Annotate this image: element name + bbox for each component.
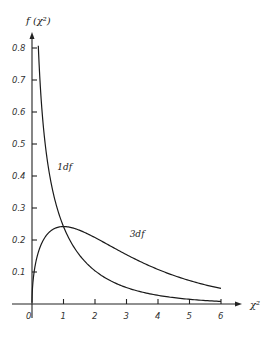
x-tick-label: 2	[92, 311, 97, 321]
x-axis-arrow-icon	[235, 302, 242, 307]
x-axis-title: χ²	[249, 299, 260, 310]
y-tick-label: 0.4	[12, 171, 26, 181]
x-tick-label: 4	[155, 311, 160, 321]
x-tick-label: 3	[124, 311, 129, 321]
chi-square-density-chart: 0123456 0.10.20.30.40.50.60.70.8 f (χ²) …	[0, 0, 276, 342]
curve-label-1df: 1df	[57, 162, 73, 172]
x-tick-label: 0	[26, 311, 31, 321]
y-tick-label: 0.6	[12, 107, 26, 117]
x-tick-label: 6	[218, 311, 224, 321]
curve-label-3df: 3df	[130, 229, 146, 239]
y-tick-label: 0.8	[12, 43, 26, 53]
axes	[12, 32, 242, 318]
y-ticks: 0.10.20.30.40.50.60.70.8	[12, 43, 37, 277]
labels: f (χ²) χ² 1df3df	[25, 15, 260, 310]
y-tick-label: 0.1	[12, 267, 26, 277]
curves	[32, 46, 221, 303]
y-tick-label: 0.5	[12, 139, 26, 149]
x-ticks: 0123456	[26, 299, 224, 321]
x-tick-label: 5	[187, 311, 192, 321]
curve-1df	[38, 46, 221, 302]
x-tick-label: 1	[61, 311, 66, 321]
y-tick-label: 0.3	[12, 203, 26, 213]
y-axis-arrow-icon	[30, 32, 35, 39]
y-axis-title: f (χ²)	[25, 15, 51, 26]
curve-3df	[32, 227, 221, 303]
y-tick-label: 0.2	[12, 235, 26, 245]
y-tick-label: 0.7	[12, 75, 26, 85]
